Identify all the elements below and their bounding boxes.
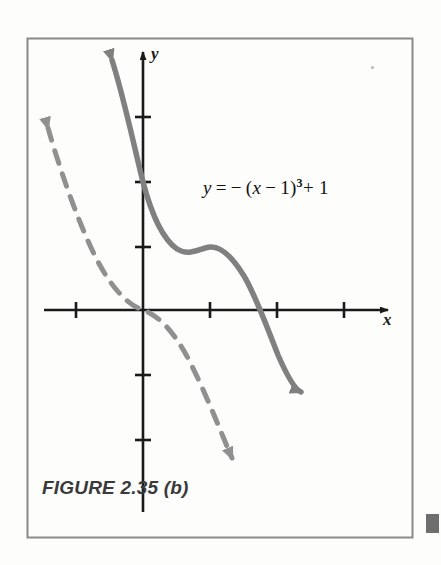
equation-lhs: y [203,177,212,198]
solid-curve-main [112,60,301,392]
equation-one: 1 [280,177,290,198]
y-axis-label: y [151,44,159,64]
x-axis-label: x [383,310,392,330]
figure-border [28,39,413,538]
equation-close-paren: ) [290,177,297,198]
page-marker-square [426,514,439,533]
equation-minus: − [265,177,276,198]
equation-annotation: y=−(x−1)3+ 1 [203,177,329,199]
figure-caption: FIGURE 2.35 (b) [42,477,189,499]
equation-plus-term: + 1 [303,177,329,198]
equation-variable: x [252,177,261,198]
equation-equals: = [216,177,227,198]
figure-container: y=−(x−1)3+ 1 x y FIGURE 2.35 (b) [0,0,441,565]
page-speck [371,66,374,69]
equation-sign: − [231,177,242,198]
